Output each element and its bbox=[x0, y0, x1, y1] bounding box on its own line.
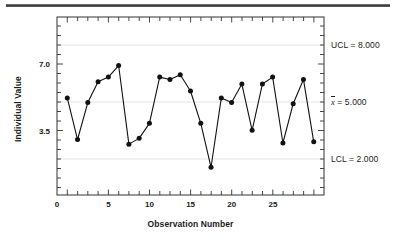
y-axis-title: Individual Value bbox=[13, 64, 23, 154]
data-point bbox=[157, 75, 162, 80]
plot-frame bbox=[57, 17, 324, 195]
data-point bbox=[75, 137, 80, 142]
data-point bbox=[85, 100, 90, 105]
lcl-label: LCL = 2.000 bbox=[331, 154, 378, 164]
ucl-label: UCL = 8.000 bbox=[331, 40, 380, 50]
top-axis-ticks bbox=[67, 17, 314, 23]
left-axis-ticks bbox=[57, 26, 63, 188]
data-point bbox=[126, 142, 131, 147]
x-tick-label-20: 20 bbox=[219, 200, 245, 209]
data-point bbox=[96, 79, 101, 84]
data-point bbox=[239, 82, 244, 87]
data-point bbox=[229, 100, 234, 105]
bottom-axis-ticks bbox=[67, 190, 314, 196]
center-line-label: x = 5.000 bbox=[331, 97, 367, 107]
data-point bbox=[137, 136, 142, 141]
control-chart: Individual Value Observation Number 7.0 … bbox=[0, 0, 396, 240]
data-point bbox=[106, 75, 111, 80]
center-line-value: = 5.000 bbox=[335, 97, 367, 107]
x-tick-label-10: 10 bbox=[137, 200, 163, 209]
x-axis-title: Observation Number bbox=[57, 219, 324, 229]
data-point bbox=[291, 101, 296, 106]
data-point bbox=[301, 77, 306, 82]
data-point bbox=[147, 121, 152, 126]
data-point bbox=[116, 63, 121, 68]
y-tick-label-7: 7.0 bbox=[24, 60, 50, 69]
data-point bbox=[178, 72, 183, 77]
right-axis-ticks bbox=[318, 26, 324, 188]
data-point bbox=[188, 88, 193, 93]
data-point bbox=[250, 128, 255, 133]
x-tick-label-5: 5 bbox=[95, 200, 121, 209]
data-point bbox=[198, 121, 203, 126]
data-point bbox=[270, 75, 275, 80]
series-line bbox=[67, 66, 313, 168]
data-point bbox=[65, 95, 70, 100]
x-tick-label-0: 0 bbox=[44, 200, 70, 209]
data-point bbox=[260, 82, 265, 87]
data-point bbox=[167, 77, 172, 82]
x-bar-symbol: x bbox=[331, 97, 335, 107]
data-point bbox=[219, 95, 224, 100]
data-point bbox=[280, 140, 285, 145]
x-tick-label-15: 15 bbox=[178, 200, 204, 209]
x-tick-label-25: 25 bbox=[260, 200, 286, 209]
data-point bbox=[311, 139, 316, 144]
y-tick-label-3.5: 3.5 bbox=[24, 127, 50, 136]
data-point bbox=[209, 165, 214, 170]
